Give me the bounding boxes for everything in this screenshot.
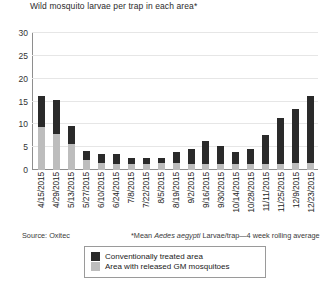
x-axis-tick-label: 7/22/2015 [141, 172, 151, 208]
bar-stack [113, 33, 120, 170]
legend-label: Area with released GM mosquitoes [105, 262, 230, 271]
bar-group[interactable] [273, 33, 288, 170]
y-axis-tick-label: 10 [19, 119, 28, 129]
x-axis-tick: 11/11/2015 [258, 172, 273, 228]
bar-group[interactable] [288, 33, 303, 170]
bar-gm-area[interactable] [247, 164, 254, 170]
bar-group[interactable] [184, 33, 199, 170]
bar-group[interactable] [154, 33, 169, 170]
bar-stack [188, 33, 195, 170]
x-axis-tick-label: 9/16/2015 [201, 172, 211, 208]
y-axis-tick-label: 20 [19, 74, 28, 84]
bar-group[interactable] [169, 33, 184, 170]
bar-stack [173, 33, 180, 170]
x-axis-tick-label: 5/27/2015 [81, 172, 91, 208]
bar-group[interactable] [258, 33, 273, 170]
y-axis-tick-label: 30 [19, 28, 28, 38]
x-axis-tick-label: 11/11/2015 [261, 172, 271, 211]
legend-item[interactable]: Area with released GM mosquitoes [91, 262, 259, 271]
x-axis-tick: 12/23/2015 [303, 172, 318, 228]
bar-gm-area[interactable] [277, 164, 284, 170]
bar-gm-area[interactable] [68, 144, 75, 170]
bar-group[interactable] [109, 33, 124, 170]
bar-stack [98, 33, 105, 170]
x-axis-tick: 8/5/2015 [154, 172, 169, 228]
bar-conventional[interactable] [277, 118, 284, 170]
x-axis-tick-label: 10/28/2015 [246, 172, 256, 213]
bar-stack [143, 33, 150, 170]
x-axis-tick-label: 8/19/2015 [171, 172, 181, 208]
bar-group[interactable] [228, 33, 243, 170]
bar-gm-area[interactable] [38, 127, 45, 170]
x-axis-labels: 4/15/20154/29/20155/13/20155/27/20156/10… [32, 172, 318, 228]
bar-gm-area[interactable] [173, 163, 180, 170]
x-axis-tick-label: 6/10/2015 [96, 172, 106, 208]
x-axis-tick-label: 10/14/2015 [231, 172, 241, 213]
bar-stack [158, 33, 165, 170]
x-axis-tick-label: 12/9/2015 [291, 172, 301, 208]
x-axis-tick: 5/13/2015 [64, 172, 79, 228]
bar-stack [128, 33, 135, 170]
x-axis-tick: 10/14/2015 [228, 172, 243, 228]
bar-gm-area[interactable] [143, 164, 150, 170]
bar-gm-area[interactable] [98, 163, 105, 170]
bar-group[interactable] [94, 33, 109, 170]
x-axis-tick: 6/10/2015 [94, 172, 109, 228]
bar-group[interactable] [243, 33, 258, 170]
legend-item[interactable]: Conventionally treated area [91, 252, 259, 261]
bar-stack [53, 33, 60, 170]
x-axis-tick: 9/2/2015 [184, 172, 199, 228]
bar-group[interactable] [49, 33, 64, 170]
bar-conventional[interactable] [292, 109, 299, 170]
bar-stack [68, 33, 75, 170]
x-axis-tick: 11/25/2015 [273, 172, 288, 228]
bar-group[interactable] [64, 33, 79, 170]
x-axis-tick-label: 4/15/2015 [36, 172, 46, 208]
bar-stack [83, 33, 90, 170]
bar-group[interactable] [79, 33, 94, 170]
x-axis-tick: 10/28/2015 [243, 172, 258, 228]
bar-conventional[interactable] [307, 96, 314, 170]
bar-gm-area[interactable] [83, 160, 90, 170]
x-axis-tick-label: 7/8/2015 [126, 172, 136, 204]
bar-group[interactable] [34, 33, 49, 170]
bar-gm-area[interactable] [262, 164, 269, 170]
bar-group[interactable] [139, 33, 154, 170]
bar-gm-area[interactable] [202, 164, 209, 170]
x-axis-tick: 7/22/2015 [139, 172, 154, 228]
chart-title: Wild mosquito larvae per trap in each ar… [30, 1, 197, 11]
bar-gm-area[interactable] [188, 164, 195, 170]
bar-stack [217, 33, 224, 170]
bar-gm-area[interactable] [217, 164, 224, 170]
bar-stack [202, 33, 209, 170]
bar-series-container [32, 33, 318, 170]
x-axis-tick-label: 12/23/2015 [306, 172, 316, 213]
x-axis-tick-label: 9/30/2015 [216, 172, 226, 208]
bar-group[interactable] [303, 33, 318, 170]
footnote-species: Aedes aegypti [154, 231, 200, 240]
bar-gm-area[interactable] [113, 164, 120, 170]
chart-figure: Wild mosquito larvae per trap in each ar… [0, 0, 326, 290]
x-axis-tick-label: 6/24/2015 [111, 172, 121, 208]
footnote-suffix: Larvae/trap—4 week rolling average [200, 231, 319, 240]
x-axis-tick-label: 11/25/2015 [276, 172, 286, 212]
bar-stack [292, 33, 299, 170]
bar-group[interactable] [124, 33, 139, 170]
bar-gm-area[interactable] [53, 134, 60, 170]
bar-gm-area[interactable] [232, 164, 239, 170]
bar-group[interactable] [198, 33, 213, 170]
y-axis-tick-label: 25 [19, 51, 28, 61]
y-axis-tick-label: 0 [23, 165, 28, 175]
bar-gm-area[interactable] [128, 164, 135, 170]
bar-gm-area[interactable] [292, 163, 299, 170]
x-axis-tick-label: 5/13/2015 [66, 172, 76, 208]
bar-group[interactable] [213, 33, 228, 170]
y-axis-tick-label: 15 [19, 97, 28, 107]
footnote: *Mean Aedes aegypti Larvae/trap—4 week r… [131, 231, 320, 240]
x-axis-tick: 9/16/2015 [198, 172, 213, 228]
bar-stack [38, 33, 45, 170]
legend-swatch-icon [91, 262, 100, 271]
bar-stack [232, 33, 239, 170]
bar-gm-area[interactable] [307, 163, 314, 170]
bar-gm-area[interactable] [158, 163, 165, 170]
